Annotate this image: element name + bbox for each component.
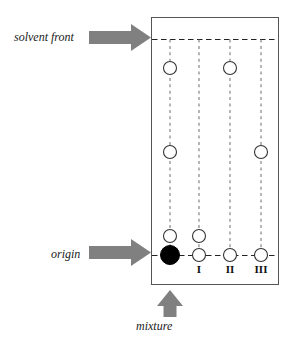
lane-label-II: II: [226, 264, 235, 275]
spot-open: [193, 230, 206, 243]
tlc-plate-diagram: [0, 0, 291, 338]
spot-filled-origin: [161, 246, 180, 265]
spot-open: [164, 230, 177, 243]
origin-label: origin: [51, 248, 80, 260]
solvent-front-arrow-icon: [89, 24, 151, 51]
spot-open: [255, 249, 268, 262]
spot-open: [255, 146, 268, 159]
mixture-arrow-icon: [157, 290, 183, 317]
lane-label-III: III: [255, 264, 268, 275]
spot-open: [193, 249, 206, 262]
spot-open: [164, 62, 177, 75]
spot-open: [224, 62, 237, 75]
lane-label-I: I: [197, 264, 201, 275]
mixture-label: mixture: [136, 320, 172, 332]
solvent-front-label: solvent front: [14, 31, 74, 43]
origin-arrow-icon: [89, 239, 151, 266]
spot-open: [164, 146, 177, 159]
spot-open: [224, 249, 237, 262]
